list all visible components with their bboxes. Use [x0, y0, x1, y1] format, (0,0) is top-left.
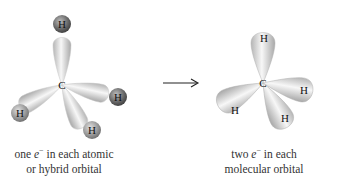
atom-label-h: H	[114, 91, 122, 103]
caption-text: in each atomic	[44, 148, 114, 160]
left-caption-line2: or hybrid orbital	[0, 162, 128, 177]
right-caption: two e− in each molecular orbital	[215, 147, 313, 177]
caption-text: two	[231, 148, 248, 160]
left-caption-line1: one e− in each atomic	[0, 147, 128, 162]
atom-label-h: H	[58, 18, 66, 30]
right-caption-line1: two e− in each	[215, 147, 313, 162]
caption-text: in each	[261, 148, 297, 160]
left-molecule: H H H H C	[11, 15, 127, 139]
right-molecule: H H H H C	[213, 32, 315, 133]
atom-label-h: H	[88, 124, 96, 136]
atom-label-h: H	[16, 107, 24, 119]
atom-label-c: C	[58, 79, 65, 91]
caption-text: one	[14, 148, 31, 160]
reaction-arrow-icon	[163, 79, 198, 87]
atom-label-h: H	[300, 84, 308, 96]
atom-label-h: H	[260, 32, 268, 44]
right-caption-line2: molecular orbital	[215, 162, 313, 177]
orbital-lobe	[53, 38, 71, 86]
atom-label-c: C	[259, 77, 266, 89]
atom-label-h: H	[281, 112, 289, 124]
left-caption: one e− in each atomic or hybrid orbital	[0, 147, 128, 177]
atom-label-h: H	[231, 104, 239, 116]
